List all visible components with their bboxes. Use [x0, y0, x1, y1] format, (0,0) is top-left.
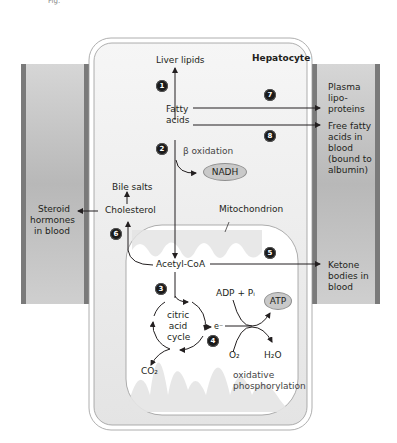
- citric-label-line2: acid: [167, 321, 189, 332]
- adp-pi-label: ADP + Pᵢ: [216, 288, 255, 299]
- acetyl-coa-label: Acetyl-CoA: [156, 259, 205, 270]
- plasma-label-1: Plasma: [328, 82, 360, 93]
- plasma-label-3: proteins: [328, 104, 365, 115]
- citric-label-line1: citric: [167, 310, 189, 321]
- figure-label-fragment: Fig.: [48, 0, 60, 7]
- step-8-badge: 8: [264, 130, 276, 142]
- h2o-label: H₂O: [264, 350, 281, 361]
- step-6-badge: 6: [110, 228, 122, 240]
- fatty-acids-label-line1: Fatty: [166, 104, 188, 115]
- step-5-badge: 5: [264, 247, 276, 259]
- plasma-label-2: lipo-: [328, 93, 348, 104]
- co2-label: CO₂: [141, 366, 158, 377]
- fatty-acids-label-line2: acids: [166, 115, 189, 126]
- steroid-label-2: hormones: [30, 215, 70, 226]
- electron-label: e⁻: [214, 321, 223, 332]
- steroid-label-1: Steroid: [30, 204, 70, 215]
- ketone-label-2: bodies in: [328, 271, 369, 282]
- liver-lipids-label: Liver lipids: [156, 55, 205, 66]
- hepatocyte-title: Hepatocyte: [252, 53, 310, 64]
- ffa-label-4: (bound to: [328, 154, 372, 165]
- step-4-badge: 4: [207, 335, 219, 347]
- step-1-badge: 1: [156, 80, 168, 92]
- ffa-label-5: albumin): [328, 165, 368, 176]
- steroid-label-3: in blood: [30, 226, 70, 237]
- ffa-label-2: acids in: [328, 132, 362, 143]
- step-3-badge: 3: [155, 283, 167, 295]
- step-7-badge: 7: [264, 89, 276, 101]
- left-blood-vessel: [21, 64, 89, 304]
- citric-label-line3: cycle: [167, 332, 189, 343]
- oxphos-label-line1: oxidative: [233, 370, 274, 381]
- step-2-badge: 2: [156, 143, 168, 155]
- atp-badge: ATP: [264, 292, 292, 310]
- mitochondrion-title: Mitochondrion: [219, 204, 283, 215]
- bile-salts-label: Bile salts: [112, 182, 153, 193]
- oxphos-label-line2: phosphorylation: [233, 381, 306, 392]
- nadh-badge: NADH: [203, 163, 247, 181]
- cholesterol-label: Cholesterol: [105, 205, 156, 216]
- beta-oxidation-label: β oxidation: [183, 146, 233, 157]
- ffa-label-1: Free fatty: [328, 121, 371, 132]
- o2-label: O₂: [229, 350, 240, 361]
- ketone-label-3: blood: [328, 282, 353, 293]
- ketone-label-1: Ketone: [328, 260, 359, 271]
- ffa-label-3: blood: [328, 143, 353, 154]
